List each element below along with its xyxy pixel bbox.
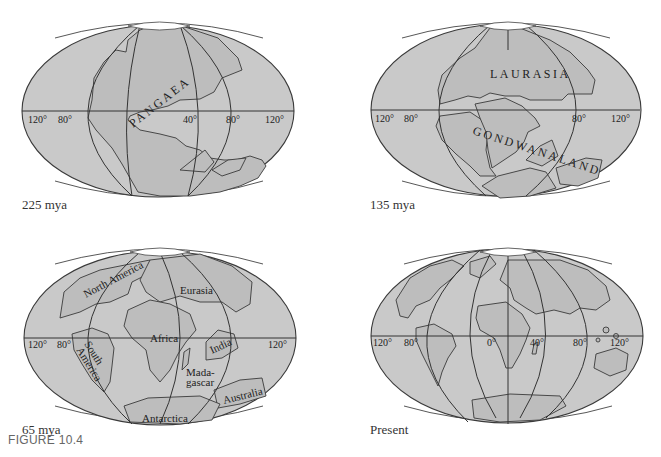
present-day-map: 120° 80° 0° 40° 80° 120° — [330, 230, 661, 430]
tick-120w: 120° — [373, 337, 392, 348]
panel-caption-225mya: 225 mya — [22, 197, 67, 213]
map-panel-present: 120° 80° 0° 40° 80° 120° Present — [330, 230, 661, 430]
island-1 — [603, 327, 609, 333]
tick-80w: 80° — [57, 339, 71, 350]
tick-120w: 120° — [375, 113, 394, 124]
tick-0: 0° — [487, 337, 496, 348]
africa-label: Africa — [150, 332, 178, 344]
madagascar-label-line2: gascar — [186, 376, 214, 388]
tick-80e: 80° — [572, 113, 586, 124]
island-3 — [596, 338, 600, 342]
map-panel-135mya: 120° 80° 80° 120° LAURASIA GONDWANALAND … — [330, 0, 661, 230]
tick-120e: 120° — [610, 337, 629, 348]
eurasia-label: Eurasia — [180, 284, 213, 296]
tick-40e: 40° — [530, 337, 544, 348]
tick-80e: 80° — [226, 114, 240, 125]
panel-caption-present: Present — [370, 422, 408, 438]
figure-number-label: FIGURE 10.4 — [8, 433, 83, 447]
pangaea-map: 120° 80° 40° 80° 120° PANGAEA — [0, 0, 330, 230]
map-panel-65mya: 120° 80° 120° North America Eurasia Afri… — [0, 230, 330, 430]
tick-120e: 120° — [611, 113, 630, 124]
laurasia-label: LAURASIA — [490, 67, 571, 81]
tick-80w: 80° — [58, 114, 72, 125]
tick-120e: 120° — [265, 114, 284, 125]
tick-80w: 80° — [404, 337, 418, 348]
panel-caption-135mya: 135 mya — [370, 197, 415, 213]
tick-40e: 40° — [183, 114, 197, 125]
antarctica-label: Antarctica — [142, 412, 188, 424]
map-panel-225mya: 120° 80° 40° 80° 120° PANGAEA 225 mya — [0, 0, 330, 230]
tick-120w: 120° — [28, 339, 47, 350]
65mya-map: 120° 80° 120° North America Eurasia Afri… — [0, 230, 330, 430]
tick-80e: 80° — [573, 337, 587, 348]
tick-120e: 120° — [268, 339, 287, 350]
tick-80w: 80° — [404, 113, 418, 124]
tick-120w: 120° — [28, 114, 47, 125]
laurasia-gondwana-map: 120° 80° 80° 120° LAURASIA GONDWANALAND — [330, 0, 661, 230]
